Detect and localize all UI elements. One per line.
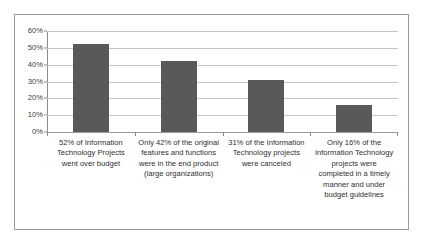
x-axis-label: Only 42% of the original features and fu… (135, 138, 223, 200)
chart-frame: 0%10%20%30%40%50%60% 52% of Information … (14, 14, 409, 230)
x-axis-tick-mark (223, 132, 224, 136)
y-axis-tick-label: 20% (28, 95, 43, 103)
bar (161, 61, 197, 132)
plot-area: 0%10%20%30%40%50%60% (47, 31, 398, 132)
gridline (47, 31, 398, 32)
x-axis-category-labels: 52% of Information Technology Projects w… (47, 138, 398, 200)
y-axis-tick-label: 0% (32, 128, 43, 136)
y-axis-tick-label: 10% (28, 111, 43, 119)
x-axis-tick-mark (310, 132, 311, 136)
x-axis-label: Only 16% of the Information Technology p… (310, 138, 398, 200)
y-axis-tick-label: 50% (28, 44, 43, 52)
y-axis-tick-mark (44, 31, 47, 32)
plot-wrapper: 0%10%20%30%40%50%60% 52% of Information … (15, 15, 408, 229)
y-axis-tick-mark (44, 98, 47, 99)
y-axis-tick-mark (44, 81, 47, 82)
x-axis-label: 31% of the Information Technology projec… (223, 138, 311, 200)
bar (336, 105, 372, 132)
x-axis-tick-mark (135, 132, 136, 136)
x-axis-tick-mark (47, 132, 48, 136)
y-axis-tick-mark (44, 115, 47, 116)
y-axis-tick-mark (44, 64, 47, 65)
x-axis-label: 52% of Information Technology Projects w… (47, 138, 135, 200)
y-axis-tick-label: 40% (28, 61, 43, 69)
bar (248, 80, 284, 132)
y-axis-tick-label: 30% (28, 78, 43, 86)
y-axis-tick-mark (44, 47, 47, 48)
y-axis-tick-label: 60% (28, 27, 43, 35)
x-axis-tick-mark (397, 132, 398, 136)
bar (73, 44, 109, 132)
